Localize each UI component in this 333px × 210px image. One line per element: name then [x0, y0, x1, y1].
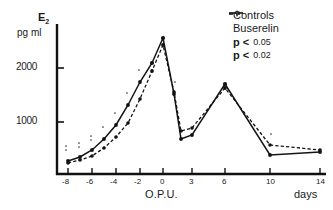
legend-item-p002: p < 0.02: [228, 48, 279, 61]
plot-canvas: [0, 0, 333, 210]
x-axis-unit-label: days: [294, 189, 317, 200]
legend-p-value-005: 0.05: [253, 37, 271, 47]
legend-item-p005: p < 0.05: [228, 35, 279, 48]
legend-p-value-002: 0.02: [253, 50, 271, 60]
legend-label-buserelin: Buserelin: [233, 22, 279, 34]
x-tick-label--2: -2: [134, 178, 141, 186]
x-tick-label--8: -8: [62, 178, 69, 186]
x-tick-label-3: 3: [189, 178, 193, 186]
x-axis-title: O.P.U.: [145, 189, 178, 200]
series-controls-line: [68, 45, 320, 163]
legend-p-operator-002: p <: [233, 49, 249, 61]
x-tick-label--6: -6: [86, 178, 93, 186]
chart-figure: E2 pg ml 2000 1000: [0, 0, 333, 210]
legend-p-operator-005: p <: [233, 36, 249, 48]
x-tick-label-14: 14: [316, 178, 325, 186]
x-tick-label--4: -4: [110, 178, 117, 186]
x-tick-label-0: 0: [160, 178, 164, 186]
series-buserelin-line: [68, 38, 320, 161]
double-dot-icon: [228, 8, 245, 19]
x-tick-label-6: 6: [222, 178, 226, 186]
legend: Controls Buserelin p < 0.05 p < 0.02: [228, 8, 279, 61]
legend-item-buserelin: Buserelin: [228, 21, 279, 34]
x-tick-label-10: 10: [266, 178, 275, 186]
series-buserelin-points: [66, 36, 322, 163]
